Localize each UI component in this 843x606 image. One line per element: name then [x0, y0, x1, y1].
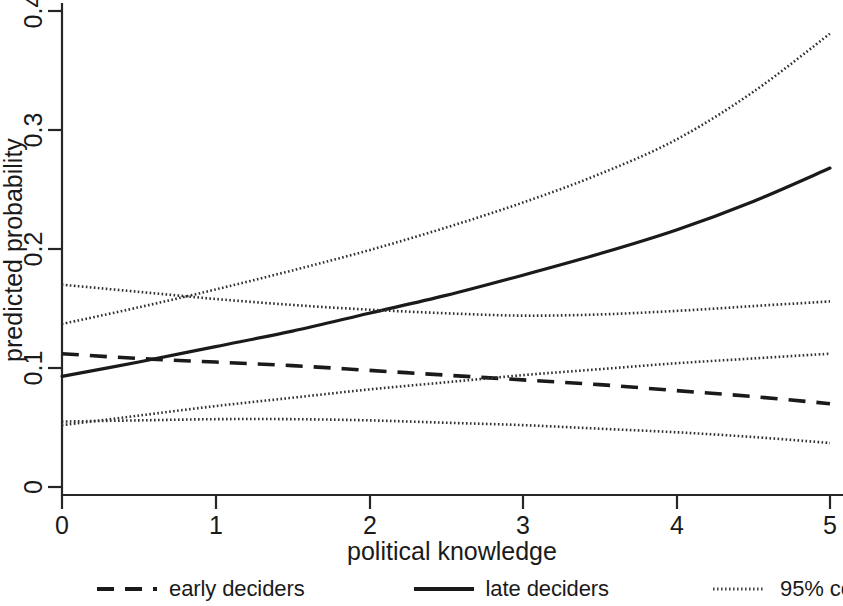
- legend-label-late-deciders: late deciders: [486, 576, 609, 602]
- line-chart-plot: 0.4 0.3 0.2 0.1 0 0 1 2 3 4 5 political …: [0, 0, 843, 606]
- x-tick-label: 5: [823, 511, 837, 539]
- x-tick-labels: 0 1 2 3 4 5: [55, 511, 837, 539]
- legend-label-early-deciders: early deciders: [169, 576, 305, 602]
- x-tick-label: 3: [516, 511, 530, 539]
- x-tick-label: 0: [55, 511, 69, 539]
- x-tick-label: 1: [209, 511, 223, 539]
- y-axis-ticks: [48, 11, 62, 487]
- legend-swatch-solid-icon: [413, 582, 475, 596]
- legend-swatch-dotted-icon: [707, 582, 769, 596]
- x-tick-label: 4: [670, 511, 684, 539]
- x-tick-label: 2: [363, 511, 377, 539]
- chart-figure: 0.4 0.3 0.2 0.1 0 0 1 2 3 4 5 political …: [0, 0, 843, 606]
- series-line: [62, 168, 830, 376]
- legend-swatch-dashed-icon: [96, 582, 158, 596]
- series-line: [62, 419, 830, 443]
- y-tick-label: 0: [19, 480, 47, 494]
- axes-group: [48, 4, 843, 509]
- y-axis-title: predicted probability: [0, 138, 27, 362]
- legend-label-confidence-intervals: 95% confidence intervals: [780, 576, 843, 602]
- series-line: [62, 354, 830, 425]
- chart-legend: early deciders late deciders 95% confide…: [0, 572, 843, 606]
- legend-item-late-deciders: late deciders: [413, 576, 609, 602]
- series-line: [62, 285, 830, 316]
- y-tick-label: 0.4: [19, 0, 47, 28]
- legend-item-early-deciders: early deciders: [96, 576, 305, 602]
- data-series-layer: [62, 34, 830, 443]
- axis-lines: [62, 4, 843, 495]
- x-axis-ticks: [62, 495, 830, 509]
- x-axis-title: political knowledge: [347, 537, 557, 565]
- series-line: [62, 34, 830, 324]
- legend-item-confidence-intervals: 95% confidence intervals: [707, 576, 843, 602]
